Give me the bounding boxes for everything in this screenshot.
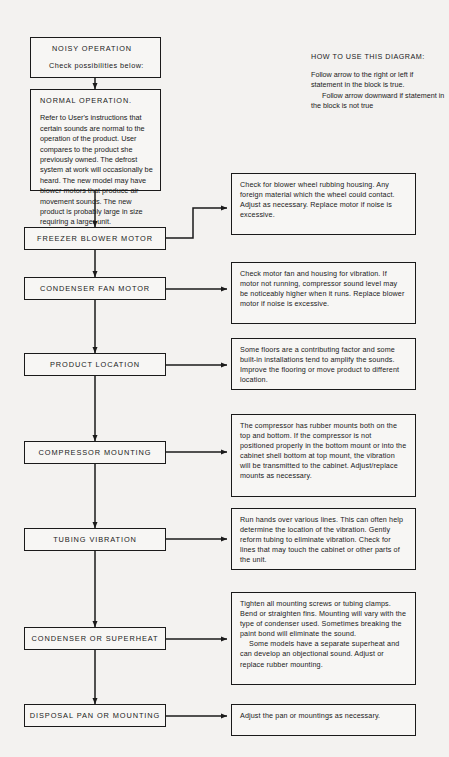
detail-text: Some floors are a contributing factor an… <box>240 345 407 385</box>
diagram-canvas: HOW TO USE THIS DIAGRAM: Follow arrow to… <box>0 0 449 757</box>
detail-condenser-fan-motor[interactable]: Check motor fan and housing for vibratio… <box>231 262 416 324</box>
detail-tubing-vibration[interactable]: Run hands over various lines. This can o… <box>231 508 416 570</box>
node-product-location[interactable]: PRODUCT LOCATION <box>24 353 166 376</box>
legend: HOW TO USE THIS DIAGRAM: Follow arrow to… <box>311 52 445 111</box>
node-condenser-or-superheat[interactable]: CONDENSER OR SUPERHEAT <box>24 627 166 650</box>
detail-text: Adjust the pan or mountings as necessary… <box>240 711 407 721</box>
detail-text-secondary: Some models have a separate superheat an… <box>240 639 407 669</box>
node-condenser-fan-motor[interactable]: CONDENSER FAN MOTOR <box>24 277 166 300</box>
detail-text: Check motor fan and housing for vibratio… <box>240 269 407 309</box>
node-disposal-pan-or-mounting[interactable]: DISPOSAL PAN OR MOUNTING <box>24 704 166 727</box>
noisy-operation-title: NOISY OPERATION <box>40 44 153 54</box>
legend-line-false: Follow arrow downward if statement in th… <box>311 91 445 111</box>
detail-text: Run hands over various lines. This can o… <box>240 515 407 565</box>
noisy-operation-subtitle: Check possibilities below: <box>40 61 153 71</box>
node-freezer-blower-motor[interactable]: FREEZER BLOWER MOTOR <box>24 227 166 250</box>
node-label: COMPRESSOR MOUNTING <box>39 448 152 457</box>
legend-title: HOW TO USE THIS DIAGRAM: <box>311 52 445 62</box>
node-compressor-mounting[interactable]: COMPRESSOR MOUNTING <box>24 441 166 464</box>
detail-text: Check for blower wheel rubbing housing. … <box>240 180 407 220</box>
node-label: CONDENSER OR SUPERHEAT <box>32 634 159 643</box>
detail-condenser-or-superheat[interactable]: Tighten all mounting screws or tubing cl… <box>231 592 416 685</box>
node-normal-operation[interactable]: NORMAL OPERATION. Refer to User's instru… <box>30 89 161 191</box>
detail-product-location[interactable]: Some floors are a contributing factor an… <box>231 338 416 390</box>
detail-disposal-pan-or-mounting[interactable]: Adjust the pan or mountings as necessary… <box>231 704 416 736</box>
node-label: TUBING VIBRATION <box>53 535 137 544</box>
node-tubing-vibration[interactable]: TUBING VIBRATION <box>24 528 166 551</box>
normal-operation-title: NORMAL OPERATION. <box>40 96 153 106</box>
node-label: CONDENSER FAN MOTOR <box>40 284 150 293</box>
node-label: PRODUCT LOCATION <box>50 360 140 369</box>
detail-text: Tighten all mounting screws or tubing cl… <box>240 599 407 639</box>
wire-node1-to-detail1 <box>166 208 227 238</box>
node-noisy-operation[interactable]: NOISY OPERATION Check possibilities belo… <box>30 37 161 78</box>
node-label: FREEZER BLOWER MOTOR <box>37 234 153 243</box>
node-label: DISPOSAL PAN OR MOUNTING <box>30 711 160 720</box>
detail-compressor-mounting[interactable]: The compressor has rubber mounts both on… <box>231 414 416 497</box>
normal-operation-body: Refer to User's instructions that certai… <box>40 113 153 227</box>
detail-text: The compressor has rubber mounts both on… <box>240 421 407 482</box>
detail-freezer-blower-motor[interactable]: Check for blower wheel rubbing housing. … <box>231 173 416 235</box>
legend-line-true: Follow arrow to the right or left if sta… <box>311 70 445 90</box>
